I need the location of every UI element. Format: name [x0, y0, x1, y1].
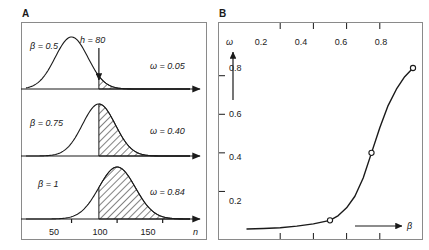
panel-a-xtick-50: 50 — [45, 228, 63, 237]
panel-a-xtick-100: 100 — [88, 228, 112, 237]
figure-container: A B β = 0.5 ω = 0.05 β = 0.75 ω = 0.40 β… — [0, 0, 429, 250]
panel-b-xtick-0p2: 0.2 — [251, 38, 271, 47]
panel-a-omega-label-row2: ω = 0.40 — [150, 127, 185, 136]
panel-a-xtick-150: 150 — [136, 228, 160, 237]
panel-a-letter: A — [22, 8, 29, 19]
panel-b-letter: B — [219, 8, 226, 19]
panel-b-y-axis-name: ω — [226, 38, 233, 47]
panel-b-xtick-0p4: 0.4 — [291, 38, 311, 47]
panel-a-beta-label-row1: β = 0.5 — [30, 42, 58, 51]
panel-b-x-axis-name: β — [407, 222, 412, 231]
panel-a-threshold-label: h = 80 — [80, 36, 105, 45]
panel-a-omega-label-row3: ω = 0.84 — [150, 188, 185, 197]
panel-b-ytick-0p6: 0.6 — [229, 110, 247, 119]
panel-a-beta-label-row3: β = 1 — [38, 180, 58, 189]
panel-b-ytick-0p4: 0.4 — [229, 153, 247, 162]
panel-b-ytick-0p8: 0.8 — [229, 64, 247, 73]
panel-b-xtick-0p8: 0.8 — [371, 38, 391, 47]
panel-a-omega-label-row1: ω = 0.05 — [150, 62, 185, 71]
panel-b-frame — [218, 22, 423, 240]
panel-b-xtick-0p6: 0.6 — [331, 38, 351, 47]
panel-a-x-axis-name: n — [193, 228, 198, 237]
panel-b-ytick-0p2: 0.2 — [229, 197, 247, 206]
panel-a-beta-label-row2: β = 0.75 — [30, 119, 63, 128]
